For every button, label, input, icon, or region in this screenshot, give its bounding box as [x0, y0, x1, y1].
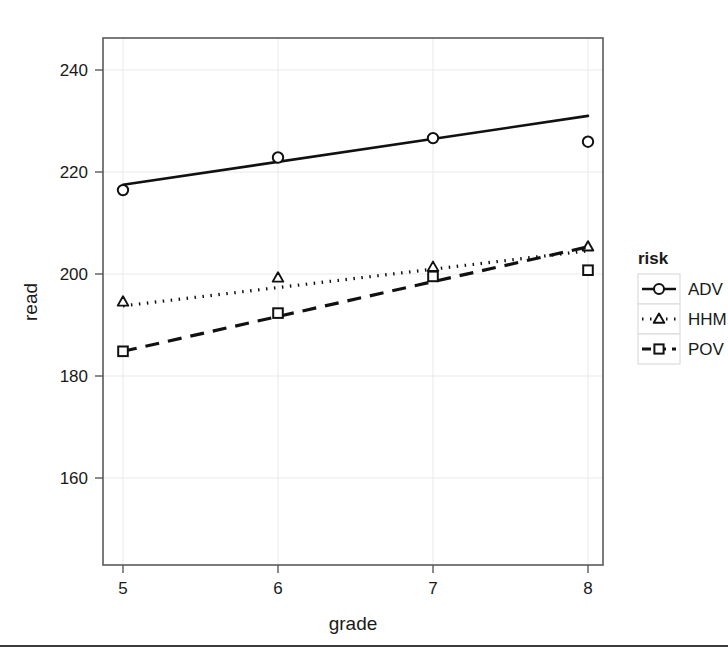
legend-label-pov: POV — [688, 340, 725, 359]
y-tick-label-240: 240 — [60, 61, 88, 80]
chart-figure: 240 220 200 180 160 5 6 7 8 grade read r… — [0, 0, 728, 651]
data-point-pov-grade8 — [583, 265, 593, 275]
data-point-adv-grade7 — [428, 133, 438, 143]
y-tick-label-160: 160 — [60, 469, 88, 488]
data-point-pov-grade7 — [428, 272, 438, 282]
data-point-pov-grade6 — [273, 308, 283, 318]
legend-title: risk — [638, 249, 669, 268]
y-tick-label-180: 180 — [60, 367, 88, 386]
data-point-adv-grade8 — [583, 137, 593, 147]
legend-marker-circle-icon — [654, 284, 664, 294]
y-axis-title: read — [20, 283, 41, 321]
y-tick-label-220: 220 — [60, 163, 88, 182]
page-bottom-rule — [0, 645, 728, 647]
x-axis-ticks — [123, 565, 588, 573]
x-tick-label-8: 8 — [583, 579, 592, 598]
x-tick-label-7: 7 — [428, 579, 437, 598]
y-tick-label-200: 200 — [60, 265, 88, 284]
x-tick-label-5: 5 — [118, 579, 127, 598]
line-chart-svg: 240 220 200 180 160 5 6 7 8 grade read r… — [0, 0, 728, 651]
data-point-adv-grade6 — [273, 152, 283, 162]
data-point-pov-grade5 — [118, 347, 128, 357]
plot-panel — [103, 38, 603, 565]
x-axis-title: grade — [329, 613, 378, 634]
legend[interactable]: risk ADV HHM P — [638, 249, 727, 364]
legend-marker-square-icon — [654, 344, 663, 353]
legend-label-hhm: HHM — [688, 310, 727, 329]
legend-label-adv: ADV — [688, 280, 724, 299]
data-point-adv-grade5 — [118, 185, 128, 195]
y-axis-ticks — [95, 70, 103, 478]
x-tick-label-6: 6 — [273, 579, 282, 598]
